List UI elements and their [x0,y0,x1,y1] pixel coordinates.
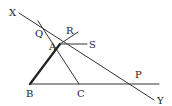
point-label-b: B [26,88,33,99]
geometry-diagram: XYQRSABCP [0,0,172,106]
point-label-s: S [89,39,96,50]
point-label-r: R [66,25,74,36]
point-label-q: Q [35,28,43,39]
point-label-a: A [48,41,57,52]
point-label-y: Y [156,95,164,106]
point-label-c: C [77,88,85,99]
line-XY [19,13,154,100]
point-label-x: X [9,7,17,18]
point-label-p: P [135,69,142,80]
